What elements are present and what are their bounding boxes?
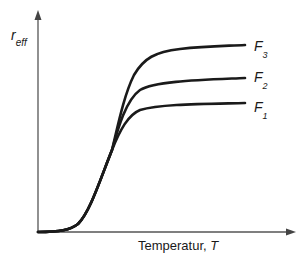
x-axis-label: Temperatur, T [138, 238, 218, 253]
x-axis-arrow-icon [286, 229, 296, 236]
curve-f2 [38, 78, 245, 232]
y-axis-arrow-icon [35, 10, 42, 20]
curve-f1 [38, 103, 245, 232]
series-label-f3: F3 [254, 38, 268, 57]
series-label-f1: F1 [254, 99, 268, 118]
curve-f3 [38, 45, 245, 232]
y-axis-label: reff [11, 27, 27, 46]
series-label-f2: F2 [254, 69, 268, 88]
